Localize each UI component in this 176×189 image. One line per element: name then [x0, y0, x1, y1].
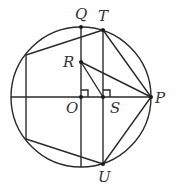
label-o: O — [66, 99, 78, 117]
point-q — [79, 25, 83, 29]
point-s — [101, 95, 105, 99]
label-t: T — [98, 7, 109, 25]
geometry-diagram: Q T R O S P U — [0, 0, 176, 189]
label-u: U — [98, 168, 112, 186]
point-p — [149, 95, 153, 99]
line-t-p — [103, 30, 151, 97]
label-s: S — [110, 99, 120, 117]
point-r — [79, 60, 83, 64]
label-q: Q — [75, 5, 87, 23]
point-u — [101, 162, 105, 166]
label-r: R — [62, 53, 74, 71]
label-p: P — [154, 89, 166, 107]
point-o — [79, 95, 83, 99]
point-t — [101, 28, 105, 32]
